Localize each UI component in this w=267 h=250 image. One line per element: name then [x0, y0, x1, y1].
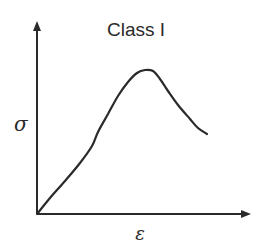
y-axis-label-sigma: σ [14, 112, 29, 136]
diagram-title: Class I [107, 19, 165, 40]
class-i-stress-strain-diagram: Class I σ ε [0, 0, 267, 250]
stress-strain-curve [37, 70, 207, 214]
x-axis-label-epsilon: ε [135, 223, 145, 244]
